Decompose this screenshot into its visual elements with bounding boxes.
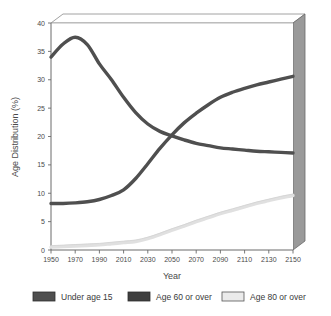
legend-label: Age 60 or over <box>156 292 212 302</box>
y-tick-label: 30 <box>37 76 45 83</box>
x-tick-label: 2110 <box>237 256 252 263</box>
x-tick-label: 2070 <box>188 256 204 263</box>
age-distribution-line-chart: 0510152025303540 19501970199020102030205… <box>0 0 331 316</box>
x-tick-label: 2130 <box>261 256 277 263</box>
y-tick-label: 10 <box>37 190 45 197</box>
x-axis-title: Year <box>163 271 181 281</box>
y-tick-label: 0 <box>41 247 45 254</box>
legend-swatch <box>222 292 244 301</box>
legend-item-2[interactable]: Age 60 or over <box>128 292 212 302</box>
legend-swatch <box>128 292 150 301</box>
y-tick-label: 35 <box>37 48 45 55</box>
y-tick-label: 40 <box>37 20 45 27</box>
chart-3d-top-slab <box>51 14 305 23</box>
y-axis-title: Age Distribution (%) <box>10 97 20 177</box>
y-tick-label: 15 <box>37 161 45 168</box>
x-tick-label: 1970 <box>67 256 83 263</box>
x-tick-label: 2030 <box>140 256 156 263</box>
legend-swatch <box>33 292 55 301</box>
chart-container: 0510152025303540 19501970199020102030205… <box>0 0 331 316</box>
y-tick-label: 20 <box>37 133 45 140</box>
x-axis-ticks: 1950197019902010203020502070209021102130… <box>43 250 301 263</box>
x-tick-label: 2090 <box>213 256 229 263</box>
legend-item-1[interactable]: Under age 15 <box>33 292 113 302</box>
y-tick-label: 25 <box>37 105 45 112</box>
x-tick-label: 2010 <box>116 256 132 263</box>
y-axis-ticks: 0510152025303540 <box>37 20 51 254</box>
x-tick-label: 2150 <box>285 256 301 263</box>
y-tick-label: 5 <box>41 218 45 225</box>
chart-3d-side-wall <box>293 14 305 250</box>
legend-label: Age 80 or over <box>250 292 306 302</box>
legend-item-3[interactable]: Age 80 or over <box>222 292 306 302</box>
x-tick-label: 1950 <box>43 256 59 263</box>
chart-legend: Under age 15Age 60 or overAge 80 or over <box>33 292 306 302</box>
x-tick-label: 1990 <box>92 256 108 263</box>
legend-label: Under age 15 <box>61 292 113 302</box>
x-tick-label: 2050 <box>164 256 180 263</box>
